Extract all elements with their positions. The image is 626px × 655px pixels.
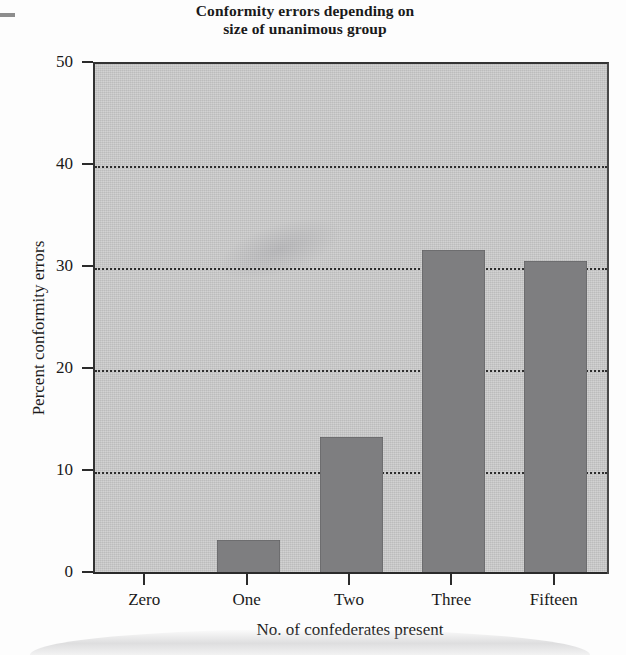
bar-one bbox=[217, 540, 280, 574]
x-tick-label-zero: Zero bbox=[89, 590, 199, 610]
x-axis-line bbox=[93, 572, 607, 574]
y-tick-mark-40 bbox=[82, 163, 93, 165]
scan-smudge-artifact bbox=[210, 205, 349, 293]
scan-edge-artifact bbox=[0, 13, 15, 17]
bar-fifteen bbox=[524, 261, 587, 574]
x-tick-mark-zero bbox=[143, 574, 145, 585]
x-tick-label-two: Two bbox=[294, 590, 404, 610]
x-tick-label-one: One bbox=[192, 590, 302, 610]
x-tick-mark-fifteen bbox=[553, 574, 555, 585]
y-tick-label-10: 10 bbox=[33, 461, 73, 478]
y-tick-label-50: 50 bbox=[33, 53, 73, 70]
x-tick-label-three: Three bbox=[396, 590, 506, 610]
bar-three bbox=[422, 250, 485, 574]
y-tick-mark-50 bbox=[82, 61, 93, 63]
y-tick-mark-20 bbox=[82, 367, 93, 369]
chart-title-line-1: Conformity errors depending on bbox=[90, 2, 520, 20]
y-tick-label-0: 0 bbox=[33, 563, 73, 580]
plot-area bbox=[93, 62, 609, 574]
x-tick-mark-two bbox=[348, 574, 350, 585]
gridline-40 bbox=[95, 166, 607, 168]
y-tick-mark-30 bbox=[82, 265, 93, 267]
chart-title-line-2: size of unanimous group bbox=[90, 20, 520, 38]
x-tick-label-fifteen: Fifteen bbox=[499, 590, 609, 610]
scanned-page: Conformity errors depending on size of u… bbox=[0, 0, 626, 655]
chart-title: Conformity errors depending on size of u… bbox=[90, 2, 520, 38]
y-axis-title: Percent conformity errors bbox=[29, 203, 49, 453]
bar-two bbox=[320, 437, 383, 574]
y-tick-mark-0 bbox=[82, 571, 93, 573]
y-tick-mark-10 bbox=[82, 469, 93, 471]
y-tick-label-40: 40 bbox=[33, 155, 73, 172]
x-tick-mark-three bbox=[450, 574, 452, 585]
x-tick-mark-one bbox=[246, 574, 248, 585]
